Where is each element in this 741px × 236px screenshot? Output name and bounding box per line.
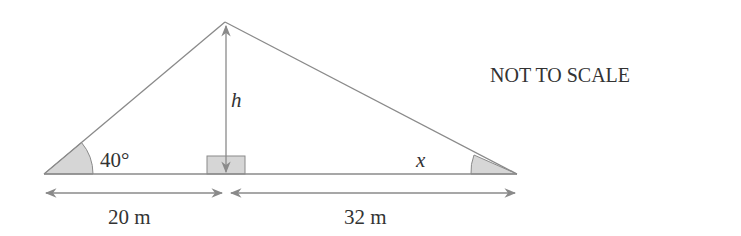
- not-to-scale-note: NOT TO SCALE: [490, 64, 630, 86]
- triangle-right-side: [225, 22, 517, 174]
- base-right-label: 32 m: [344, 205, 387, 229]
- angle-x-sector: [471, 155, 517, 174]
- angle-40-sector: [44, 143, 93, 175]
- triangle-left-side: [44, 22, 225, 174]
- angle-40-label: 40°: [100, 148, 129, 172]
- height-label: h: [231, 88, 242, 112]
- angle-x-label: x: [415, 148, 426, 172]
- base-left-label: 20 m: [108, 205, 151, 229]
- triangle-diagram: 40° x h 20 m 32 m NOT TO SCALE: [0, 0, 741, 236]
